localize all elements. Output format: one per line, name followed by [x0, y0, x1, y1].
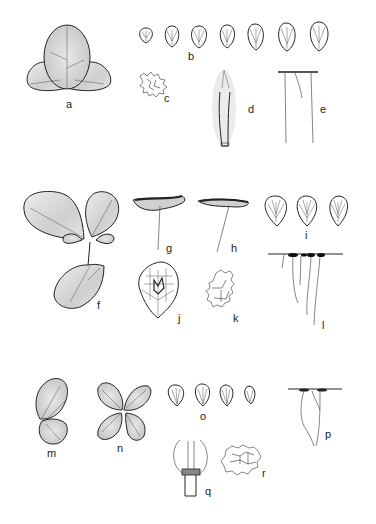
figure-p-leaflet-margin: [288, 389, 342, 447]
figure-b-leaflet-series: [140, 22, 328, 51]
label-l: l: [322, 320, 324, 331]
label-n: n: [117, 443, 123, 454]
figure-l-leaflet-margin: [268, 253, 343, 325]
figure-o-leaflet-series: [168, 384, 255, 406]
label-d: d: [248, 104, 254, 115]
plate-drawing: [0, 0, 376, 524]
label-f: f: [97, 300, 100, 311]
figure-g-leaflet-section: [133, 196, 185, 250]
label-c: c: [164, 93, 170, 104]
label-k: k: [233, 313, 239, 324]
figure-r-epidermal-cells: [221, 445, 261, 475]
figure-m-leaf: [36, 379, 67, 445]
label-h: h: [231, 243, 237, 254]
botanical-plate: a b c d e f g h i j k l m n o p q r: [0, 0, 376, 524]
label-a: a: [66, 99, 72, 110]
figure-e-leaflet-margin: [278, 72, 318, 143]
figure-a-trifoliate-leaf: [27, 25, 111, 91]
label-q: q: [205, 486, 211, 497]
label-m: m: [47, 448, 56, 459]
figure-h-leaflet-section: [198, 199, 248, 252]
figure-n-four-leaflet: [98, 383, 151, 440]
label-p: p: [325, 429, 331, 440]
label-i: i: [305, 230, 307, 241]
label-e: e: [320, 104, 326, 115]
figure-i-leaflet-series: [265, 196, 347, 226]
label-j: j: [178, 313, 180, 324]
figure-d-stipule: [212, 70, 236, 146]
label-r: r: [262, 468, 266, 479]
label-g: g: [166, 243, 172, 254]
figure-k-epidermal-cells: [206, 270, 234, 307]
figure-j-leaflet-venation: [139, 262, 179, 318]
figure-q-stipule: [174, 440, 208, 496]
figure-c-epidermal-cells: [140, 72, 167, 97]
figure-f-trifoliate-leaf: [24, 191, 119, 308]
label-o: o: [200, 411, 206, 422]
label-b: b: [188, 51, 194, 62]
